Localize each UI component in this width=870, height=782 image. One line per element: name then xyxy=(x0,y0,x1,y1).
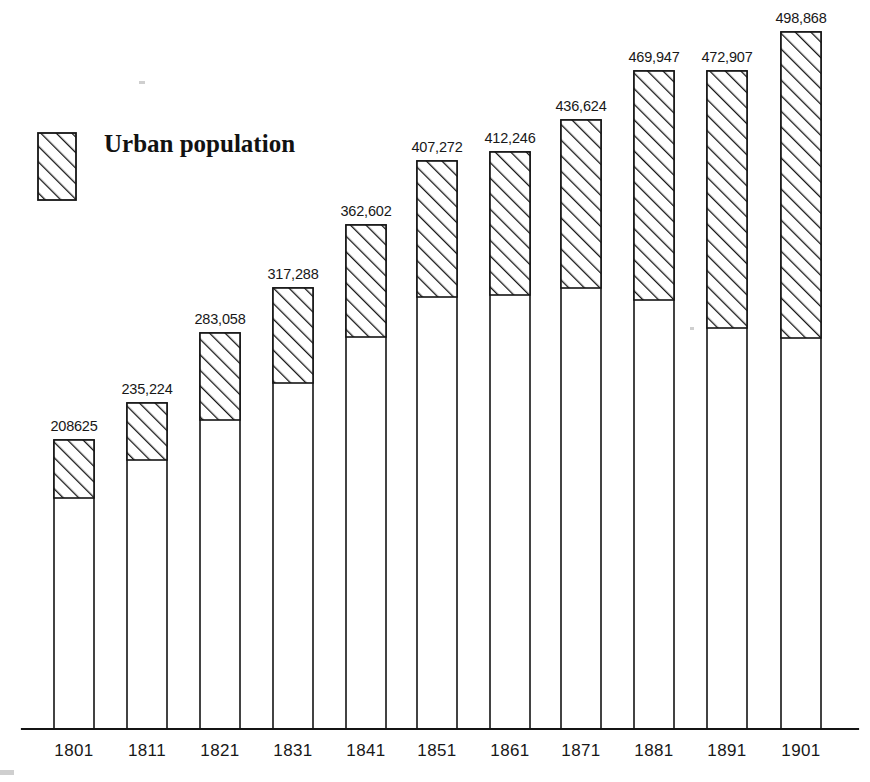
value-label-1831: 317,288 xyxy=(267,266,318,282)
legend: Urban population xyxy=(38,130,295,200)
bar-urban-segment-1801 xyxy=(54,440,94,498)
value-label-1861: 412,246 xyxy=(484,130,535,146)
chart-container: Urban population 208625235,224283,058317… xyxy=(0,0,870,782)
tick-label-1821: 1821 xyxy=(200,741,239,760)
bar-1841 xyxy=(346,225,386,729)
value-label-1891: 472,907 xyxy=(701,49,752,65)
bar-1881 xyxy=(634,71,674,729)
value-label-1851: 407,272 xyxy=(411,139,462,155)
x-axis-tick-labels: 1801181118211831184118511861187118811891… xyxy=(54,741,820,760)
bar-urban-segment-1881 xyxy=(634,71,674,300)
bar-1861 xyxy=(490,152,530,729)
value-label-1901: 498,868 xyxy=(775,10,826,26)
value-label-1801: 208625 xyxy=(50,418,97,434)
tick-label-1861: 1861 xyxy=(490,741,529,760)
tick-label-1851: 1851 xyxy=(417,741,456,760)
bar-urban-segment-1821 xyxy=(200,333,240,420)
bar-1871 xyxy=(561,120,601,729)
bar-urban-segment-1811 xyxy=(127,403,167,460)
bar-1811 xyxy=(127,403,167,729)
urban-population-bar-chart: Urban population 208625235,224283,058317… xyxy=(0,0,870,782)
bar-1821 xyxy=(200,333,240,729)
value-label-1821: 283,058 xyxy=(194,311,245,327)
bar-urban-segment-1841 xyxy=(346,225,386,337)
bar-1891 xyxy=(707,71,747,729)
tick-label-1891: 1891 xyxy=(707,741,746,760)
bar-urban-segment-1861 xyxy=(490,152,530,295)
tick-label-1881: 1881 xyxy=(634,741,673,760)
bar-1851 xyxy=(417,161,457,729)
legend-label: Urban population xyxy=(104,130,295,157)
bar-1831 xyxy=(273,288,313,729)
bar-urban-segment-1851 xyxy=(417,161,457,297)
bar-urban-segment-1901 xyxy=(781,32,821,338)
bar-urban-segment-1831 xyxy=(273,288,313,383)
tick-label-1811: 1811 xyxy=(128,741,166,760)
bar-1801 xyxy=(54,440,94,729)
tick-label-1841: 1841 xyxy=(346,741,385,760)
bar-urban-segment-1871 xyxy=(561,120,601,288)
tick-label-1901: 1901 xyxy=(781,741,820,760)
value-label-1841: 362,602 xyxy=(340,203,391,219)
value-label-1881: 469,947 xyxy=(628,49,679,65)
bar-1901 xyxy=(781,32,821,729)
tick-label-1831: 1831 xyxy=(273,741,312,760)
tick-label-1801: 1801 xyxy=(54,741,93,760)
tick-label-1871: 1871 xyxy=(561,741,600,760)
bar-urban-segment-1891 xyxy=(707,71,747,328)
value-label-1811: 235,224 xyxy=(121,381,172,397)
value-label-1871: 436,624 xyxy=(555,98,606,114)
legend-swatch-icon xyxy=(38,133,76,200)
